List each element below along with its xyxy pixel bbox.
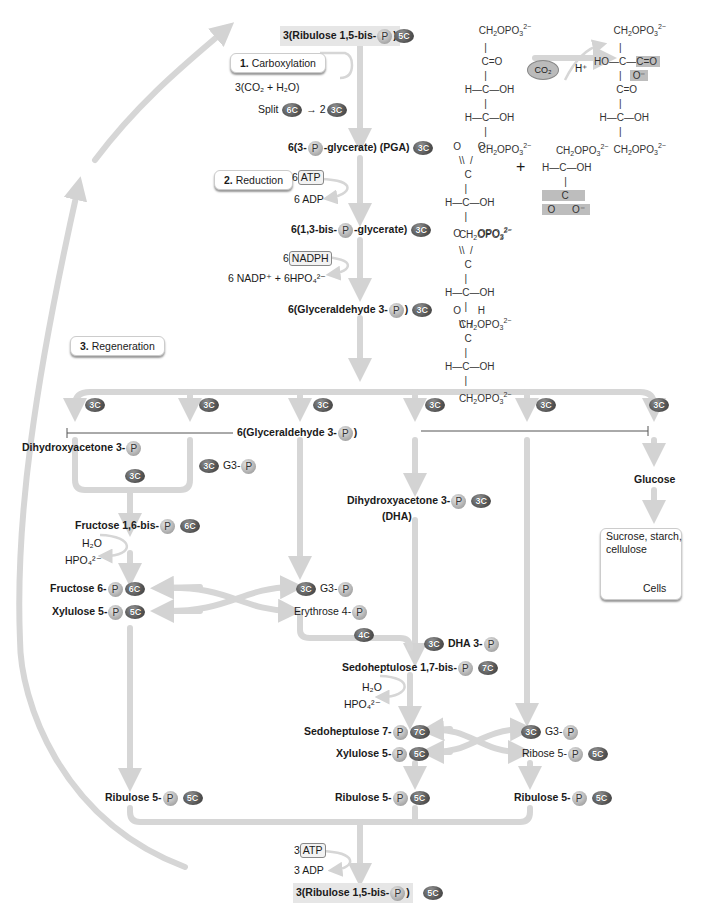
h2o-2: H₂O bbox=[362, 680, 382, 694]
co2-badge: CO₂ bbox=[527, 60, 559, 80]
plus-sign: + bbox=[516, 160, 525, 174]
g3-left: 3C G3-P bbox=[198, 458, 257, 474]
adp-output: 6 ADP bbox=[294, 192, 324, 206]
branch-carbon-5: 3C bbox=[535, 397, 557, 412]
hpo4-2: HPO₄²⁻ bbox=[344, 697, 381, 711]
fbp-label: Fructose 1,6-bis-P 6C bbox=[75, 518, 201, 534]
s7p-label: Sedoheptulose 7-P7C bbox=[304, 724, 431, 740]
branch-carbon-4: 3C bbox=[424, 397, 446, 412]
pga2-structure: CH2OPO32− H—C—OH | C O O⁻ bbox=[542, 140, 608, 217]
f6p-label: Fructose 6-P6C bbox=[50, 581, 146, 597]
dha-abbr: (DHA) bbox=[382, 509, 412, 523]
c4-badge: 4C bbox=[353, 627, 375, 642]
rubp-structure: CH2OPO32− | C=O | H—C—OH | H—C—OH | CH2O… bbox=[462, 20, 531, 160]
split-label: Split 6C → 23C bbox=[258, 102, 348, 117]
intermediate-structure: CH2OPO32− | HO—C—C=O | O⁻ C=O | H—C—OH |… bbox=[594, 20, 666, 160]
ru5p-right: Ribulose 5-P 5C bbox=[514, 790, 613, 806]
dha3-label: 3C DHA 3-P bbox=[423, 636, 500, 652]
rubp-top-carbon: 5C bbox=[393, 28, 415, 43]
cells-label: Cells bbox=[643, 581, 666, 595]
h-plus: H⁺ bbox=[575, 62, 587, 76]
dhap-left: Dihydroxyacetone 3-P bbox=[22, 440, 142, 456]
branch-carbon-2: 3C bbox=[198, 397, 220, 412]
pga-label: 6(3-P-glycerate) (PGA) 3C bbox=[288, 140, 434, 156]
merge-carbon: 3C bbox=[124, 468, 146, 483]
g3p-bar-label: 6(Glyceraldehyde 3-P) bbox=[237, 425, 357, 441]
g3-mid: 3C G3-P bbox=[295, 581, 354, 597]
nadph-input: 6NADPH bbox=[283, 251, 332, 266]
e4p-label: Erythrose 4-P bbox=[294, 604, 368, 620]
bpg-label: 6(1,3-bis-P-glycerate) 3C bbox=[291, 222, 432, 238]
nadp-output: 6 NADP⁺ + 6HPO₄²⁻ bbox=[228, 271, 326, 285]
atp-input: 6ATP bbox=[292, 170, 324, 185]
r5p-label: Ribose 5-P 5C bbox=[522, 746, 609, 762]
g3p-label: 6(Glyceraldehyde 3-P) 3C bbox=[288, 302, 433, 318]
co2-input: 3(CO₂ + H₂O) bbox=[235, 80, 299, 94]
xu5p-mid: Xylulose 5-P5C bbox=[336, 746, 430, 762]
adp-bottom: 3 ADP bbox=[294, 863, 324, 877]
stage-regeneration: 3. Regeneration bbox=[70, 336, 165, 356]
rubp-bottom-carbon: 5C bbox=[422, 885, 444, 900]
branch-carbon-1: 3C bbox=[84, 397, 106, 412]
sucrose-label: Sucrose, starch, cellulose bbox=[606, 530, 682, 556]
branch-carbon-3: 3C bbox=[312, 397, 334, 412]
rubp-bottom: 3(Ribulose 1,5-bis-P) bbox=[293, 883, 413, 903]
sbp-label: Sedoheptulose 1,7-bis-P 7C bbox=[342, 660, 499, 676]
h2o-1: H₂O bbox=[82, 536, 102, 550]
hpo4-1: HPO₄²⁻ bbox=[65, 553, 102, 567]
stage-carboxylation: 1. Carboxylation bbox=[230, 53, 326, 73]
ru5p-left: Ribulose 5-P 5C bbox=[105, 790, 204, 806]
stage-reduction: 2. Reduction bbox=[214, 170, 293, 190]
branch-carbon-6: 3C bbox=[648, 397, 670, 412]
glucose-label: Glucose bbox=[634, 472, 675, 486]
xu5p-left: Xylulose 5-P5C bbox=[52, 604, 146, 620]
rubp-top: 3(Ribulose 1,5-bis-P) bbox=[280, 26, 400, 46]
atp-bottom: 3ATP bbox=[294, 843, 326, 858]
g3p-structure: O H \\ / C | H—C—OH | CH2OPO32− bbox=[445, 304, 511, 409]
ru5p-mid: Ribulose 5-P5C bbox=[335, 790, 431, 806]
g3-right: 3C G3-P bbox=[520, 724, 579, 740]
dha-mid: Dihydroxyacetone 3-P 3C bbox=[347, 493, 492, 509]
